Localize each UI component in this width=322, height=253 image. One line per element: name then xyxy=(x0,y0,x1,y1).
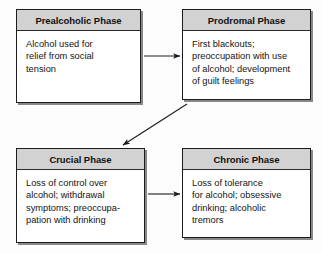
body-line: Loss of tolerance xyxy=(192,177,302,189)
body-line: of alcohol; development xyxy=(192,63,302,75)
node-prodromal-phase-title: Prodromal Phase xyxy=(183,10,310,31)
body-line: tremors xyxy=(192,214,302,226)
flowchart-diagram: Prealcoholic Phase Alcohol used for reli… xyxy=(0,0,322,253)
arrow-prodromal-to-crucial xyxy=(123,104,187,145)
body-line: Alcohol used for xyxy=(26,38,132,50)
body-line: Loss of control over xyxy=(26,177,136,189)
body-line: symptoms; preoccupa- xyxy=(26,202,136,214)
body-line: First blackouts; xyxy=(192,38,302,50)
body-line: tension xyxy=(26,63,132,75)
node-crucial-phase: Crucial Phase Loss of control over alcoh… xyxy=(16,148,145,243)
node-prodromal-phase-body: First blackouts; preoccupation with use … xyxy=(183,31,310,93)
node-prealcoholic-phase-body: Alcohol used for relief from social tens… xyxy=(17,31,140,80)
node-prealcoholic-phase: Prealcoholic Phase Alcohol used for reli… xyxy=(16,9,141,103)
body-line: for alcohol; obsessive xyxy=(192,189,302,201)
body-line: alcohol; withdrawal xyxy=(26,189,136,201)
node-chronic-phase-body: Loss of tolerance for alcohol; obsessive… xyxy=(183,170,310,232)
body-line: pation with drinking xyxy=(26,214,136,226)
node-crucial-phase-title: Crucial Phase xyxy=(17,149,144,170)
body-line: preoccupation with use xyxy=(192,50,302,62)
node-crucial-phase-body: Loss of control over alcohol; withdrawal… xyxy=(17,170,144,232)
body-line: of guilt feelings xyxy=(192,75,302,87)
node-prealcoholic-phase-title: Prealcoholic Phase xyxy=(17,10,140,31)
body-line: drinking; alcoholic xyxy=(192,202,302,214)
node-prodromal-phase: Prodromal Phase First blackouts; preoccu… xyxy=(182,9,311,100)
node-chronic-phase: Chronic Phase Loss of tolerance for alco… xyxy=(182,148,311,238)
node-chronic-phase-title: Chronic Phase xyxy=(183,149,310,170)
body-line: relief from social xyxy=(26,50,132,62)
